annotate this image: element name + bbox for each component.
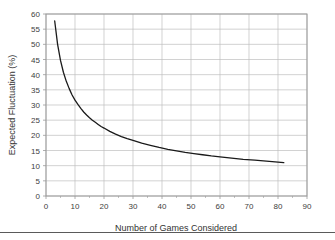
- y-axis-tick-label: 25: [31, 116, 40, 125]
- x-axis-tick-label: 50: [187, 202, 196, 211]
- x-axis-tick-label: 90: [303, 202, 312, 211]
- x-axis-tick-label: 20: [100, 202, 109, 211]
- x-axis-tick-label: 30: [129, 202, 138, 211]
- y-axis-tick-label: 15: [31, 147, 40, 156]
- y-axis-tick-label: 40: [31, 71, 40, 80]
- y-axis-tick-label: 0: [36, 192, 41, 201]
- y-axis-tick-label: 60: [31, 10, 40, 19]
- x-axis-tick-label: 40: [158, 202, 167, 211]
- x-axis-tick-label: 70: [245, 202, 254, 211]
- y-axis-title: Expected Fluctuation (%): [7, 55, 17, 156]
- y-axis-tick-label: 5: [36, 177, 41, 186]
- x-axis-tick-label: 0: [44, 202, 49, 211]
- y-axis-tick-label: 50: [31, 40, 40, 49]
- expected-fluctuation-line-chart: 051015202530354045505560 010203040506070…: [0, 0, 335, 240]
- x-axis-tick-label: 80: [274, 202, 283, 211]
- y-axis-tick-label: 35: [31, 86, 40, 95]
- y-axis-tick-label: 45: [31, 56, 40, 65]
- y-axis-tick-label: 10: [31, 162, 40, 171]
- y-axis-tick-label: 55: [31, 25, 40, 34]
- chart-figure: 051015202530354045505560 010203040506070…: [0, 0, 335, 240]
- bottom-divider-rule: [0, 232, 335, 233]
- x-axis-tick-label: 10: [71, 202, 80, 211]
- y-axis-tick-label: 30: [31, 101, 40, 110]
- x-axis-tick-label: 60: [216, 202, 225, 211]
- y-axis-tick-label: 20: [31, 131, 40, 140]
